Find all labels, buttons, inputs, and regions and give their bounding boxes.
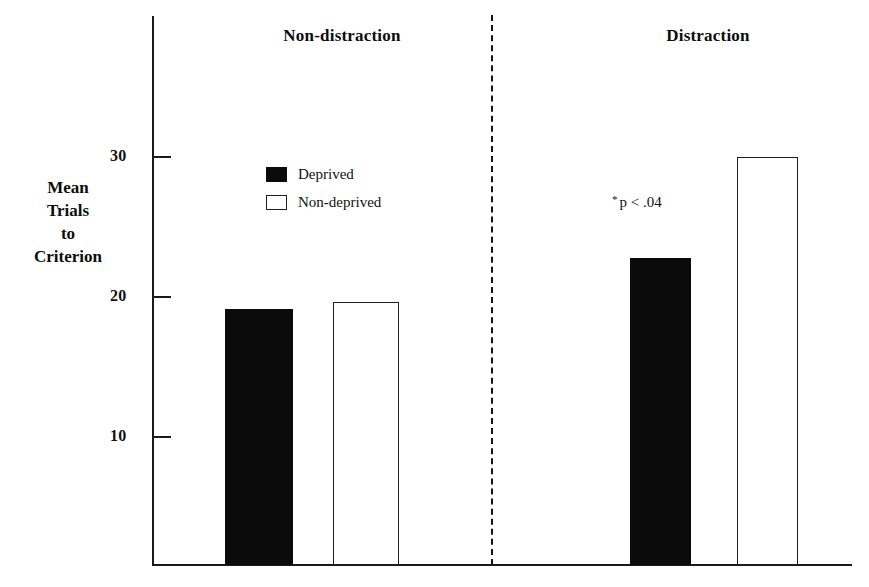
legend-item-deprived: Deprived bbox=[266, 160, 381, 188]
significance-annotation: *p < .04 bbox=[612, 193, 662, 211]
y-axis-title: Mean Trials to Criterion bbox=[8, 176, 128, 268]
y-axis-title-line-3: to bbox=[8, 222, 128, 245]
legend-swatch-hollow-icon bbox=[266, 195, 287, 210]
y-axis-title-line-2: Trials bbox=[8, 199, 128, 222]
significance-annotation-text: p < .04 bbox=[620, 194, 662, 210]
legend-label-deprived: Deprived bbox=[298, 166, 354, 183]
y-tick-20 bbox=[154, 296, 171, 298]
panel-title-non-distraction: Non-distraction bbox=[232, 26, 452, 46]
bar-chart-figure: 30 20 10 Mean Trials to Criterion Non-di… bbox=[0, 0, 869, 587]
legend-item-non-deprived: Non-deprived bbox=[266, 188, 381, 216]
asterisk-icon: * bbox=[612, 193, 618, 205]
bar-non-distraction-non-deprived bbox=[333, 302, 399, 565]
y-axis-title-line-4: Criterion bbox=[8, 245, 128, 268]
panel-divider-dashed bbox=[491, 15, 493, 565]
legend-label-non-deprived: Non-deprived bbox=[298, 194, 381, 211]
y-tick-30 bbox=[154, 156, 171, 158]
y-axis-line bbox=[152, 16, 154, 565]
bar-distraction-non-deprived bbox=[737, 157, 798, 565]
y-tick-label-30: 30 bbox=[110, 147, 127, 165]
y-axis-title-line-1: Mean bbox=[8, 176, 128, 199]
y-tick-label-10: 10 bbox=[110, 427, 127, 445]
bar-distraction-deprived bbox=[630, 258, 691, 565]
y-tick-label-20: 20 bbox=[110, 287, 127, 305]
y-tick-10 bbox=[154, 436, 171, 438]
panel-title-distraction: Distraction bbox=[608, 26, 808, 46]
legend-swatch-filled-icon bbox=[266, 167, 287, 182]
bar-non-distraction-deprived bbox=[225, 309, 293, 565]
legend: Deprived Non-deprived bbox=[266, 160, 381, 216]
